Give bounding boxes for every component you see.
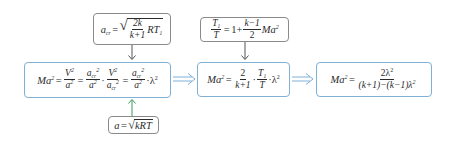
fraction: acr2 a2: [131, 69, 145, 90]
arrow-sound-speed-to-eq1: [129, 100, 136, 117]
mach-temperature-box: Ma2 = 2 k+1 · T1 T · λ2: [197, 62, 290, 97]
equals-sign: =: [112, 24, 118, 35]
fraction: T1 T: [257, 69, 267, 90]
fraction: T1 T: [211, 19, 221, 40]
fraction: V2 a2: [64, 69, 75, 90]
temperature-ratio-box: T1 T = 1+ k−1 2 Ma2: [200, 17, 289, 42]
implies-arrow-2: [292, 74, 313, 85]
mach-lambda-result-box: Ma2 = 2λ2 (k+1)−(k−1)λ2: [316, 62, 432, 97]
sqrt-expression: √ 2k k+1 RT1: [120, 18, 164, 40]
sound-speed-box: a = √ kRT: [108, 116, 159, 134]
fraction: 2 k+1: [234, 69, 251, 90]
arrow-temp-ratio-to-eq2: [242, 41, 249, 60]
fraction: 2k k+1: [129, 19, 146, 40]
fraction: k−1 2: [243, 19, 260, 40]
fraction: V2 acr2: [106, 69, 120, 90]
mach-expansion-box: Ma2 = V2 a2 = acr2 a2 · V2 acr2 = acr2 a…: [24, 62, 171, 98]
implies-arrow-1: [173, 74, 195, 85]
sqrt-expression: √ kRT: [128, 119, 153, 131]
fraction: acr2 a2: [86, 69, 100, 90]
fraction: 2λ2 (k+1)−(k−1)λ2: [357, 69, 416, 90]
acr-lhs: acr: [101, 24, 111, 35]
arrow-acr-to-eq1: [129, 45, 136, 60]
critical-sound-speed-box: acr = √ 2k k+1 RT1: [93, 13, 171, 45]
